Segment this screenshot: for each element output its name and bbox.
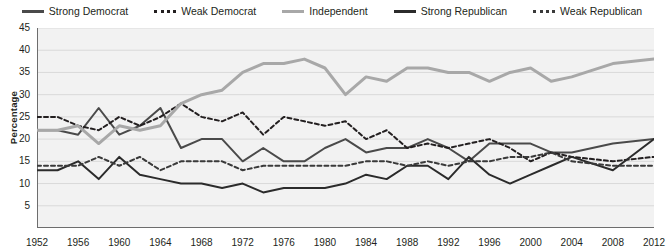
x-tick-label: 2008 [593, 238, 633, 248]
legend-item-weak-democrat[interactable]: Weak Democrat [154, 6, 256, 17]
x-tick-label: 1984 [346, 238, 386, 248]
y-tick-label: 15 [6, 156, 30, 166]
legend-swatch-icon [22, 10, 44, 13]
chart-canvas [37, 28, 654, 228]
legend-swatch-icon [154, 10, 176, 13]
legend-item-label: Strong Democrat [49, 6, 128, 17]
y-tick-label: 5 [6, 201, 30, 211]
y-tick-label: 30 [6, 90, 30, 100]
x-tick-label: 1968 [182, 238, 222, 248]
plot-area [37, 28, 654, 228]
chart-legend: Strong DemocratWeak DemocratIndependentS… [0, 0, 664, 22]
legend-item-independent[interactable]: Independent [282, 6, 367, 17]
series-line-strong-democrat [37, 108, 654, 161]
x-tick-label: 1992 [428, 238, 468, 248]
legend-swatch-icon [394, 10, 416, 13]
x-tick-label: 1960 [99, 238, 139, 248]
x-tick-label: 1964 [140, 238, 180, 248]
x-tick-label: 1988 [387, 238, 427, 248]
legend-item-label: Independent [309, 6, 367, 17]
legend-item-label: Weak Democrat [181, 6, 256, 17]
y-tick-label: 20 [6, 134, 30, 144]
legend-item-strong-republican[interactable]: Strong Republican [394, 6, 507, 17]
x-tick-label: 2004 [552, 238, 592, 248]
x-tick-label: 1996 [469, 238, 509, 248]
legend-item-strong-democrat[interactable]: Strong Democrat [22, 6, 128, 17]
legend-item-label: Strong Republican [421, 6, 507, 17]
legend-item-label: Weak Republican [560, 6, 642, 17]
y-tick-label: 45 [6, 23, 30, 33]
x-tick-label: 1980 [305, 238, 345, 248]
y-tick-label: 40 [6, 45, 30, 55]
legend-swatch-icon [282, 10, 304, 13]
x-tick-label: 1972 [223, 238, 263, 248]
legend-item-weak-republican[interactable]: Weak Republican [533, 6, 642, 17]
x-tick-label: 1956 [58, 238, 98, 248]
y-tick-label: 10 [6, 179, 30, 189]
legend-swatch-icon [533, 10, 555, 13]
x-tick-label: 2000 [511, 238, 551, 248]
x-tick-label: 1952 [17, 238, 57, 248]
y-tick-label: 35 [6, 67, 30, 77]
x-tick-label: 2012 [634, 238, 670, 248]
y-tick-label: 25 [6, 112, 30, 122]
x-tick-label: 1976 [264, 238, 304, 248]
